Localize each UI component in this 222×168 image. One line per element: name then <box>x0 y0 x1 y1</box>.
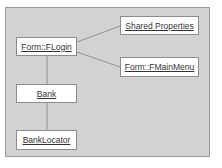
edge-flogin-shared <box>77 26 120 42</box>
node-shared-properties[interactable]: Shared Properties <box>120 16 199 35</box>
edge-flogin-fmainmenu <box>77 52 120 67</box>
node-form-fmainmenu[interactable]: Form::FMainMenu <box>120 57 199 77</box>
node-bank[interactable]: Bank <box>16 84 77 103</box>
node-form-flogin[interactable]: Form::FLogin <box>16 37 77 56</box>
node-banklocator[interactable]: BankLocator <box>16 130 77 150</box>
